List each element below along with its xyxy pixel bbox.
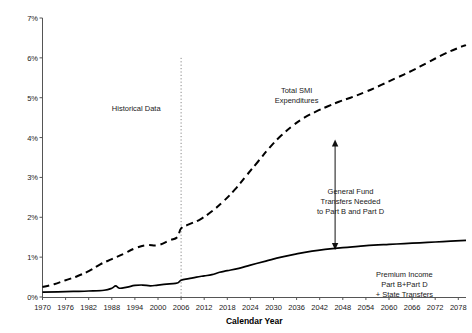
smi-expenditures-chart: 0%1%2%3%4%5%6%7% 19701976198219881994200…: [0, 0, 472, 333]
annotation-line: General Fund: [317, 187, 384, 197]
x-tick-label: 2030: [265, 303, 282, 312]
x-tick-label: 2006: [173, 303, 190, 312]
annotation-line: + State Transfers: [376, 290, 433, 300]
series-line-0: [43, 45, 467, 287]
x-tick-label: 2000: [150, 303, 167, 312]
x-tick-label: 2024: [242, 303, 259, 312]
x-tick-label: 2060: [381, 303, 398, 312]
x-axis-title: Calendar Year: [226, 316, 283, 326]
x-tick-label: 2066: [404, 303, 421, 312]
x-tick-label: 2078: [450, 303, 467, 312]
annotation-line: Historical Data: [112, 104, 161, 114]
x-tick-label: 2048: [334, 303, 351, 312]
y-tick-label: 5%: [6, 93, 38, 102]
annotation-line: Premium Income: [376, 270, 433, 280]
axis-lines: [43, 18, 467, 298]
y-tick-label: 0%: [6, 293, 38, 302]
x-tick-label: 1970: [34, 303, 51, 312]
annotation-line: Part B+Part D: [376, 280, 433, 290]
x-tick-label: 2018: [219, 303, 236, 312]
y-tick-label: 7%: [6, 14, 38, 23]
y-tick-label: 3%: [6, 173, 38, 182]
annotation-line: Total SMI: [275, 86, 319, 96]
annotation-premium-income: Premium IncomePart B+Part D+ State Trans…: [376, 270, 433, 300]
annotation-line: to Part B and Part D: [317, 207, 384, 217]
annotation-line: Expenditures: [275, 96, 319, 106]
annotation-line: Transfers Needed: [317, 197, 384, 207]
annotation-general-fund-transfers: General FundTransfers Neededto Part B an…: [317, 187, 384, 217]
x-tick-label: 1988: [103, 303, 120, 312]
x-tick-label: 2072: [427, 303, 444, 312]
gap-arrow-head-up: [332, 140, 338, 147]
x-tick-label: 2042: [311, 303, 328, 312]
x-tick-label: 2012: [196, 303, 213, 312]
x-tick-label: 1976: [57, 303, 74, 312]
x-tick-label: 1982: [80, 303, 97, 312]
y-tick-label: 2%: [6, 213, 38, 222]
x-tick-label: 2036: [288, 303, 305, 312]
annotation-total-smi-expenditures: Total SMIExpenditures: [275, 86, 319, 106]
y-tick-label: 6%: [6, 53, 38, 62]
x-tick-label: 1994: [127, 303, 144, 312]
chart-series: [43, 45, 467, 292]
annotation-historical-data: Historical Data: [112, 104, 161, 114]
y-tick-label: 1%: [6, 253, 38, 262]
x-tick-label: 2054: [358, 303, 375, 312]
y-tick-label: 4%: [6, 133, 38, 142]
